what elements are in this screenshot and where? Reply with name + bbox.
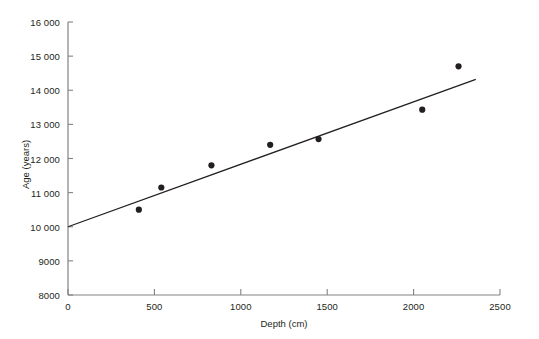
data-point-marker — [419, 107, 425, 113]
chart-figure: 8000900010 00011 00012 00013 00014 00015… — [0, 0, 539, 339]
data-point-marker — [158, 184, 164, 190]
y-axis-tick-label: 14 000 — [0, 85, 60, 96]
y-axis-tick-label: 9000 — [0, 255, 60, 266]
y-axis-tick-label: 13 000 — [0, 119, 60, 130]
regression-line — [68, 79, 476, 226]
y-axis-tick-label: 10 000 — [0, 221, 60, 232]
x-axis-title: Depth (cm) — [261, 318, 308, 329]
x-axis-tick-label: 0 — [65, 301, 70, 312]
y-axis-title: Age (years) — [20, 139, 31, 188]
scatter-plot-canvas — [0, 0, 539, 339]
data-point-series — [136, 63, 462, 213]
data-point-marker — [315, 136, 321, 142]
data-point-marker — [136, 207, 142, 213]
y-axis-tick-label: 8000 — [0, 290, 60, 301]
data-point-marker — [208, 162, 214, 168]
y-axis-tick-label: 16 000 — [0, 17, 60, 28]
axis-lines — [68, 22, 500, 295]
x-axis-ticks — [68, 289, 500, 295]
trend-line-series — [68, 79, 476, 226]
x-axis-tick-label: 2500 — [489, 301, 511, 312]
y-axis-ticks — [68, 22, 73, 295]
x-axis-tick-label: 1000 — [230, 301, 252, 312]
x-axis-tick-label: 500 — [146, 301, 162, 312]
x-axis-tick-label: 2000 — [403, 301, 425, 312]
x-axis-tick-label: 1500 — [316, 301, 338, 312]
data-point-marker — [267, 142, 273, 148]
data-point-marker — [455, 63, 461, 69]
y-axis-tick-label: 15 000 — [0, 51, 60, 62]
